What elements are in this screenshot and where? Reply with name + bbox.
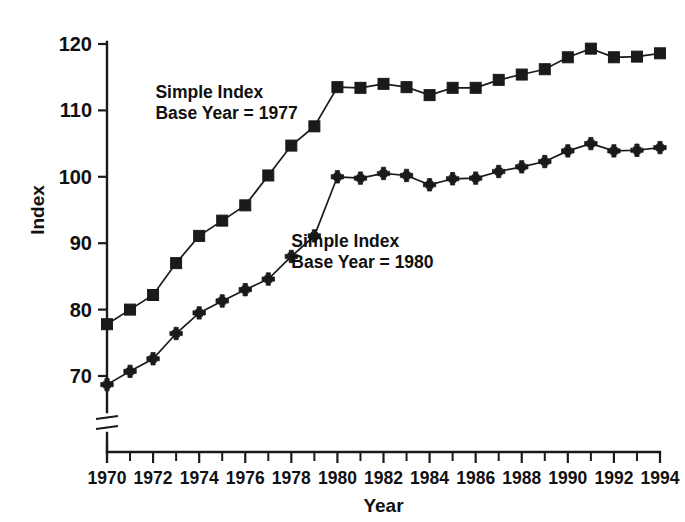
data-marker-plus [239, 283, 251, 295]
axis-break-mark-upper [96, 416, 118, 419]
data-marker-square [516, 69, 527, 80]
axis-break-mark-lower [96, 426, 118, 429]
data-marker-square [401, 82, 412, 93]
data-marker-square [470, 82, 481, 93]
y-tick-label-100: 100 [59, 166, 92, 188]
data-marker-plus [585, 137, 597, 149]
data-marker-square [562, 52, 573, 63]
series-label-1-line2: Base Year = 1977 [155, 103, 297, 123]
data-marker-plus [539, 155, 551, 167]
data-marker-square [608, 52, 619, 63]
data-marker-square [194, 230, 205, 241]
data-marker-square [585, 43, 596, 54]
x-tick-label-1972: 1972 [134, 468, 173, 488]
data-marker-square [217, 215, 228, 226]
data-marker-square [309, 121, 320, 132]
series-label-2-line1: Simple Index [291, 231, 399, 251]
data-marker-square [424, 90, 435, 101]
data-marker-plus [562, 145, 574, 157]
y-tick-label-110: 110 [60, 99, 92, 121]
data-marker-square [631, 51, 642, 62]
data-marker-square [378, 78, 389, 89]
data-marker-plus [124, 365, 136, 377]
data-marker-square [539, 64, 550, 75]
data-marker-plus [101, 378, 113, 390]
data-marker-plus [654, 141, 666, 153]
data-marker-square [286, 140, 297, 151]
data-marker-plus [423, 179, 435, 191]
data-marker-square [171, 258, 182, 269]
data-marker-plus [608, 145, 620, 157]
x-tick-label-1990: 1990 [548, 468, 587, 488]
y-tick-label-70: 70 [70, 365, 92, 387]
data-marker-square [655, 48, 666, 59]
y-tick-label-80: 80 [70, 299, 92, 321]
index-line-chart: 7080901001101201970197219741976197819801… [0, 0, 685, 522]
x-tick-label-1980: 1980 [318, 468, 357, 488]
data-marker-plus [400, 169, 412, 181]
y-tick-label-120: 120 [59, 33, 92, 55]
x-axis-title: Year [363, 495, 404, 516]
data-marker-plus [493, 165, 505, 177]
data-marker-square [148, 289, 159, 300]
data-marker-plus [354, 172, 366, 184]
y-tick-label-90: 90 [70, 232, 92, 254]
data-marker-plus [216, 295, 228, 307]
data-marker-plus [377, 167, 389, 179]
data-marker-plus [331, 171, 343, 183]
data-marker-square [447, 82, 458, 93]
data-marker-plus [631, 144, 643, 156]
data-marker-square [332, 82, 343, 93]
x-tick-label-1974: 1974 [180, 468, 219, 488]
x-tick-label-1982: 1982 [364, 468, 403, 488]
data-marker-square [355, 82, 366, 93]
x-tick-label-1978: 1978 [272, 468, 311, 488]
data-marker-square [240, 200, 251, 211]
data-marker-square [263, 170, 274, 181]
chart-figure: 7080901001101201970197219741976197819801… [0, 0, 685, 522]
x-tick-label-1992: 1992 [594, 468, 633, 488]
x-tick-label-1976: 1976 [226, 468, 265, 488]
data-marker-square [102, 319, 113, 330]
data-marker-plus [446, 173, 458, 185]
x-tick-label-1986: 1986 [456, 468, 495, 488]
y-axis-title: Index [27, 185, 48, 235]
data-marker-square [493, 74, 504, 85]
x-tick-label-1984: 1984 [410, 468, 449, 488]
data-marker-plus [469, 172, 481, 184]
x-tick-label-1994: 1994 [641, 468, 680, 488]
series-label-1-line1: Simple Index [155, 82, 263, 102]
x-tick-label-1988: 1988 [502, 468, 541, 488]
x-tick-label-1970: 1970 [88, 468, 127, 488]
data-marker-square [125, 304, 136, 315]
series-label-2-line2: Base Year = 1980 [291, 252, 434, 272]
data-marker-plus [516, 161, 528, 173]
